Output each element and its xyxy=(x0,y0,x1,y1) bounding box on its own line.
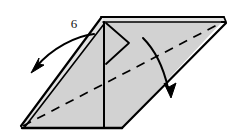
step-number-label: 6 xyxy=(71,16,78,31)
right-panel-shape xyxy=(103,22,222,128)
origami-figure: 6 xyxy=(0,0,231,136)
origami-diagram: 6 xyxy=(0,0,231,136)
right-fold-arrow-head xyxy=(164,83,176,98)
